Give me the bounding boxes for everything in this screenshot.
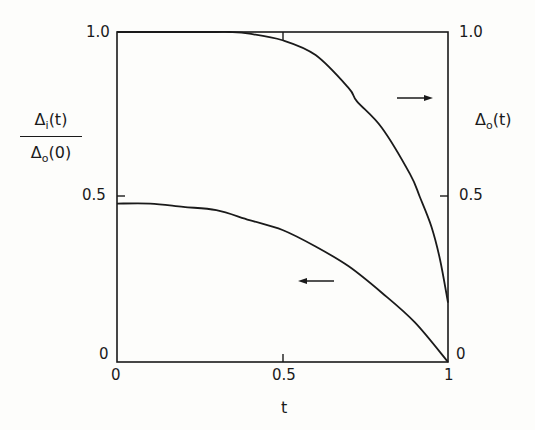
arg-0: (0) [49,143,72,162]
arg-t: (t) [49,110,68,129]
x-tick-label-0: 0 [111,368,121,383]
y-tick-label-right-1: 1.0 [459,25,483,40]
y-tick-label-left-0: 0 [99,347,109,362]
arrow-left-icon [298,278,334,284]
y-tick-label-left-1: 1.0 [86,25,110,40]
arrow-right-icon [397,95,433,101]
delta-i-curve [117,203,448,362]
arg-t: (t) [493,110,512,129]
x-axis-label: t [281,400,287,416]
x-tick-label-1: 1 [444,368,454,383]
right-y-axis-label: Δo(t) [475,112,511,131]
y-tick-label-right-0: 0 [456,347,466,362]
delta-symbol: Δ [31,143,42,162]
y-tick-label-left-05: 0.5 [82,188,106,203]
y-tick-label-right-05: 0.5 [459,188,483,203]
left-y-axis-label: Δi(t) Δo(0) [20,110,82,165]
plot-area [0,0,535,430]
delta-symbol: Δ [475,110,486,129]
plot-frame [117,32,448,362]
delta-o-curve [117,32,448,303]
subscript-o: o [486,119,493,132]
delta-symbol: Δ [35,110,46,129]
x-tick-label-05: 0.5 [272,368,296,383]
subscript-o: o [42,152,49,165]
